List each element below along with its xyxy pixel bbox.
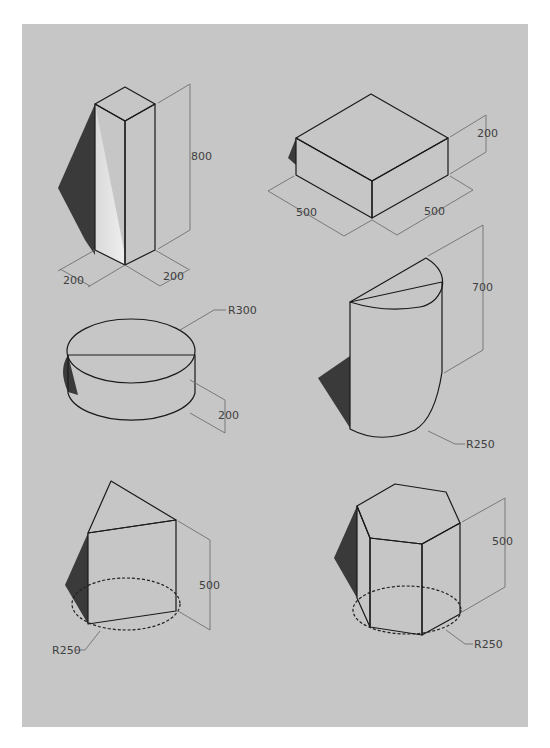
shadow: [58, 104, 95, 255]
dimension-label: 500: [296, 206, 317, 219]
flat-square-box: 200 500 500: [268, 94, 498, 236]
short-cylinder: R300 200: [63, 304, 257, 433]
half-cylinder: 700 R250: [318, 225, 495, 451]
dimension-label: 500: [492, 535, 513, 548]
tall-square-prism: 800 200 200: [58, 84, 212, 287]
dimension-label: 200: [477, 127, 498, 140]
dimension-label: 500: [424, 205, 445, 218]
dimension-label: 200: [218, 409, 239, 422]
dimension-label: 200: [63, 274, 84, 287]
dimension-label: R300: [228, 304, 257, 317]
dimension-label: 800: [191, 150, 212, 163]
dimension-label: R250: [466, 438, 495, 451]
dimension-label: 200: [163, 270, 184, 283]
triangular-prism: 500 R250: [52, 481, 220, 657]
dimension-label: 700: [472, 281, 493, 294]
hexagonal-prism: 500 R250: [334, 484, 513, 651]
dimension-label: R250: [474, 638, 503, 651]
isometric-shapes-diagram: 800 200 200 200 500 500 R300 200: [0, 0, 550, 748]
dimension-label: R250: [52, 644, 81, 657]
dimension-label: 500: [199, 579, 220, 592]
